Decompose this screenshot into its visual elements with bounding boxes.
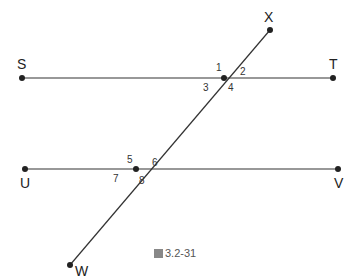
angle-8: 8 [139, 176, 145, 186]
point-x [267, 27, 273, 33]
point-u [22, 166, 28, 172]
label-v: V [334, 176, 343, 190]
caption-text: 3.2-31 [165, 247, 196, 259]
point-s [19, 75, 25, 81]
intersection-lower [133, 166, 139, 172]
angle-1: 1 [216, 63, 222, 73]
angle-5: 5 [127, 155, 133, 165]
point-t [330, 75, 336, 81]
label-x: X [264, 10, 273, 24]
angle-3: 3 [203, 83, 209, 93]
label-w: W [75, 264, 88, 278]
point-v [335, 166, 341, 172]
angle-4: 4 [228, 83, 234, 93]
angle-6: 6 [152, 158, 158, 168]
angle-7: 7 [113, 174, 119, 184]
figure-caption: 3.2-31 [154, 248, 196, 259]
label-t: T [329, 57, 338, 71]
intersection-upper [221, 75, 227, 81]
angle-2: 2 [240, 67, 246, 77]
point-w [67, 262, 73, 268]
figure-icon [154, 249, 163, 258]
label-u: U [20, 176, 30, 190]
label-s: S [17, 57, 26, 71]
